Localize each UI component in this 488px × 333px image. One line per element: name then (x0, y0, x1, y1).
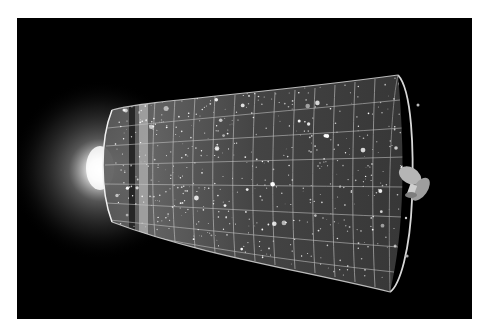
cmb-dark-band (129, 90, 135, 240)
cmb-bright-band (139, 90, 148, 240)
universe-illustration (17, 18, 472, 319)
expansion-cone (103, 75, 413, 292)
illustration-frame: Illustration of the expanding universe t… (17, 18, 472, 319)
